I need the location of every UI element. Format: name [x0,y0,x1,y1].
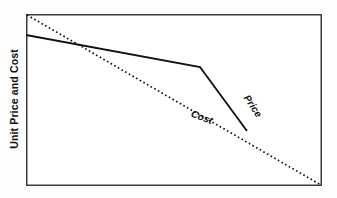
plot-svg [26,14,322,186]
chart-screenshot: Unit Price and Cost Cost Price [0,0,337,198]
plot-area: Cost Price [26,14,322,186]
y-axis-title: Unit Price and Cost [8,49,20,149]
